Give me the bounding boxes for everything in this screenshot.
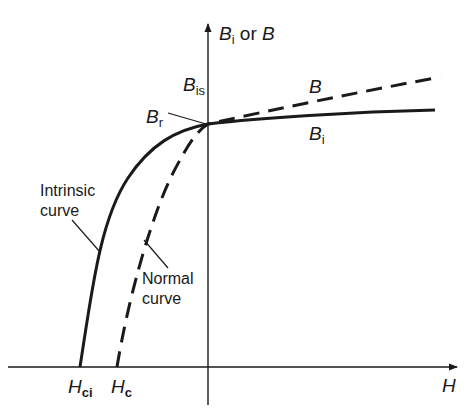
bis-label: Bis <box>183 74 206 98</box>
normal-callout-line2: curve <box>142 290 181 307</box>
hysteresis-diagram: Bi or B Bis Br B Bi Intrinsic curve Norm… <box>0 0 476 415</box>
intrinsic-callout-line1: Intrinsic <box>40 182 95 199</box>
y-axis-label: Bi or B <box>219 23 275 47</box>
hci-label: Hci <box>68 376 93 400</box>
x-axis-label: H <box>442 375 456 396</box>
normal-curve <box>117 77 440 367</box>
bi-curve-label: Bi <box>309 123 325 147</box>
intrinsic-callout-line2: curve <box>40 202 79 219</box>
b-curve-label: B <box>309 76 322 97</box>
br-label: Br <box>146 106 164 130</box>
normal-leader-line <box>144 240 168 268</box>
hc-label: Hc <box>111 376 132 400</box>
intrinsic-leader-line <box>72 220 100 252</box>
normal-callout-line1: Normal <box>142 270 194 287</box>
intrinsic-curve <box>80 110 435 367</box>
br-leader-line <box>168 113 206 124</box>
